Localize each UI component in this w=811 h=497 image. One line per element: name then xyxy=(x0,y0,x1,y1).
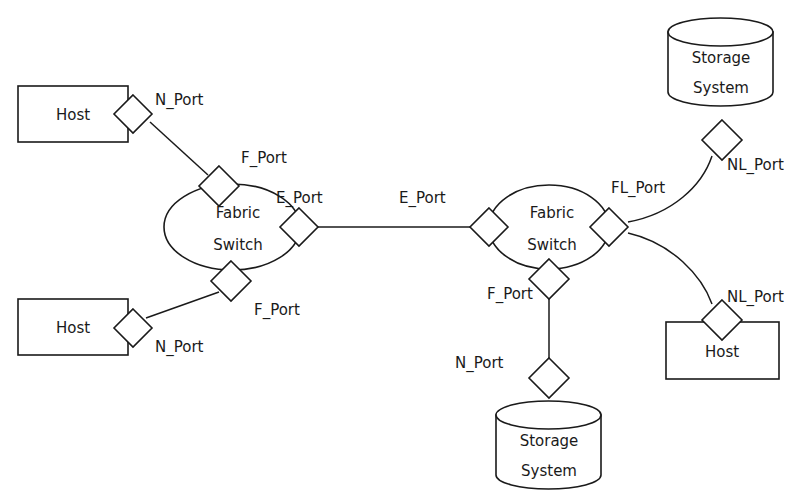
storage-top-right-label-line1: Storage xyxy=(692,49,751,67)
f-port-left-switch-bottom-label: F_Port xyxy=(254,301,300,320)
node-host-top-left[interactable]: Host xyxy=(18,86,128,142)
storage-bottom-center-label-line1: Storage xyxy=(520,432,579,450)
host-bottom-left-label: Host xyxy=(56,319,90,337)
f-port-left-switch-top-label: F_Port xyxy=(241,149,287,168)
storage-top-right-label-line2: System xyxy=(693,79,749,97)
host-bottom-right-label: Host xyxy=(705,343,739,361)
fibre-channel-topology-diagram: Host Host Fabric Switch Fabric Switch St… xyxy=(0,0,811,497)
n-port-top-left-host-label: N_Port xyxy=(155,91,204,110)
fl-port-right-switch-label: FL_Port xyxy=(611,179,665,198)
n-port-bottom-left-host-label: N_Port xyxy=(155,338,204,357)
host-top-left-label: Host xyxy=(56,106,90,124)
fabric-switch-right-label-line1: Fabric xyxy=(530,204,575,222)
storage-bottom-center-top-cap xyxy=(496,401,601,429)
nl-port-top-storage-label: NL_Port xyxy=(727,156,784,175)
storage-bottom-center-label-line2: System xyxy=(521,462,577,480)
fabric-switch-left-label-line1: Fabric xyxy=(216,204,261,222)
diagram-canvas: Host Host Fabric Switch Fabric Switch St… xyxy=(0,0,811,497)
e-port-right-switch-label: E_Port xyxy=(399,189,446,208)
e-port-left-switch-label: E_Port xyxy=(276,189,323,208)
node-storage-system-bottom-center[interactable]: Storage System xyxy=(496,401,601,489)
n-port-bottom-storage-label: N_Port xyxy=(455,354,504,373)
nl-port-bottom-right-host-label: NL_Port xyxy=(727,288,784,307)
storage-top-right-top-cap xyxy=(668,18,773,46)
fabric-switch-left-label-line2: Switch xyxy=(213,236,263,254)
node-storage-system-top-right[interactable]: Storage System xyxy=(668,18,773,106)
f-port-right-switch-bottom-label: F_Port xyxy=(487,285,533,304)
fabric-switch-right-label-line2: Switch xyxy=(527,236,577,254)
node-host-bottom-left[interactable]: Host xyxy=(18,299,128,355)
